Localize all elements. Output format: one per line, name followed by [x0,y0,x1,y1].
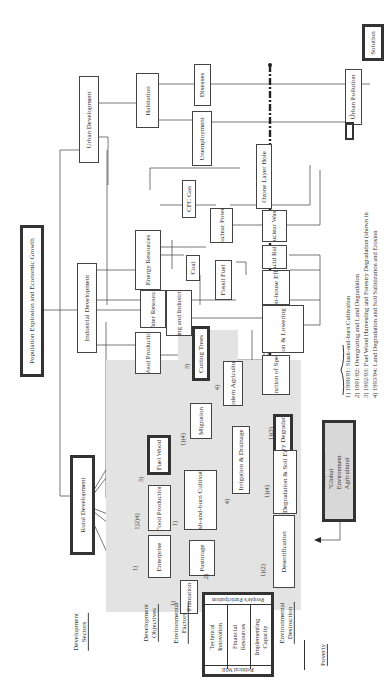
scope-of-study-label: Scope of the Study entitled "Global Envi… [322,453,356,490]
number-enterprise: 1) [131,566,138,571]
greenhouse-effects-label: Green-house Effects [272,270,280,305]
extinction-of-species-label: Extinction of Species [272,355,280,395]
label-environmental-factors: Environmental Factors [168,598,192,648]
unemployment-label: Unemployment [198,117,206,161]
number-forestry-degradation: 1)(3) [267,427,274,440]
enterprise-node: Enterprise [148,535,171,578]
acid-rain-node: Acid Rain [262,245,287,269]
land-degradation-node: Land Degradation & Soil Erosion [273,450,297,514]
water-resources-node: Water Resources [140,290,166,328]
number-land-degradation: 1)(4) [263,485,270,498]
wood-production-node: Wood Production [135,332,161,374]
diseases-label: Diseases [199,73,207,98]
number-cutting-trees: 3) [183,364,190,369]
solution-label: Solution [369,31,377,55]
fossil-fuel-label: Fossil Fuel [220,265,228,296]
financial-resources-cell: Financial Resources [228,605,251,669]
urban-development-node: Urban Development [79,76,99,163]
ozone-layer-hole-label: Ozone Layer Hole [260,151,268,203]
number-slash-burn: 1) [171,521,178,526]
urban-pollution-node: Urban Pollution [345,69,362,125]
nuclear-waste-label: Nuclear Waste [271,210,279,242]
industrial-development-node: Industrial Development [77,263,97,353]
food-production-label: Food Production [156,485,164,531]
food-production-node: Food Production [148,485,171,531]
land-degradation-label: Land Degradation & Soil Erosion [281,450,289,514]
number-fuel-wood: 3) [137,477,144,482]
number-irrigation: 4) [223,499,230,504]
number-modern-agri: 4) [213,385,220,390]
desertification-label: Desertification [280,531,288,573]
number-desertification: 1)(2) [259,564,266,577]
fuel-wood-node: Fuel Wood [147,435,171,475]
scope-of-study-box: Scope of the Study entitled "Global Envi… [322,420,356,522]
label-development-sectors: Development Sectors [68,610,92,654]
implementing-capacity-cell: Implementing Capacity [251,605,271,669]
slash-and-burn-label: Slash-and-burn Cultivation [197,470,205,530]
label-environmental-destruction: Environmental Destruction [274,598,298,648]
wood-production-label: Wood Production [144,332,152,374]
legend-item-4: 4) 1993/94: Land Degradation and Soil Sa… [371,230,378,398]
nuclear-power-label: Nuclear Power [218,208,226,243]
population-explosion-label: Population Explosion and Economic Growth [28,238,36,364]
fuel-wood-label: Fuel Wood [155,440,163,471]
coal-label: Coal [189,261,197,274]
cfc-gas-label: CFC Gas [185,186,193,212]
drinking-industrial-use-node: Drinking and Industrial Use [166,290,192,336]
legend: 1) 1990/91: Slash-and-burn Cultivation 2… [340,130,380,398]
water-pollution-label: Water Pollution & Lowering Groundwater [279,305,287,353]
label-development-objectives: Development Objectives [138,598,162,648]
industrial-development-label: Industrial Development [83,275,91,341]
label-poverty: Poverty [316,640,330,670]
number-food-production: 1)2)4) [133,513,140,529]
habitation-node: Habitation [136,73,159,128]
legend-item-1: 1) 1990/91: Slash-and-burn Cultivation [344,296,351,398]
slash-and-burn-node: Slash-and-burn Cultivation [184,470,217,530]
peoples-participation-cell: People's Participation [205,595,271,605]
habitation-label: Habitation [144,86,152,116]
solution-node: Solution [362,24,384,61]
poverty-arrow-icon [304,640,305,670]
pasturage-label: Pasturage [198,544,206,571]
drinking-industrial-use-label: Drinking and Industrial Use [175,290,183,336]
urban-development-label: Urban Development [85,91,93,148]
unemployment-node: Unemployment [192,111,212,166]
nuclear-power-node: Nuclear Power [210,208,233,243]
irrigation-drainage-label: Irrigation & Drainage [237,429,245,490]
rural-development-node: Rural Development [70,455,95,555]
migration-node: Migration [190,403,212,439]
water-pollution-node: Water Pollution & Lowering Groundwater [262,305,304,353]
modern-agriculture-label: Modern Agriculture [229,361,237,406]
legend-item-2: 2) 1991/92: Overgrazing and Land Degrada… [353,274,360,398]
ozone-layer-hole-node: Ozone Layer Hole [256,144,272,209]
coal-node: Coal [186,255,200,281]
migration-label: Migration [197,407,205,435]
irrigation-drainage-node: Irrigation & Drainage [232,426,250,494]
energy-resources-node: Energy Resources [135,230,161,290]
acid-rain-label: Acid Rain [271,245,279,269]
modern-agriculture-node: Modern Agriculture [223,361,243,406]
greenhouse-effects-node: Green-house Effects [262,270,290,305]
enterprise-label: Enterprise [156,542,164,571]
legend-item-3: 3) 1992/93: Fuel Wood Harvesting and For… [362,212,369,398]
desertification-node: Desertification [273,515,295,588]
cutting-trees-label: Cutting Trees [197,335,205,373]
legend-close-paren: ) [347,114,354,116]
rural-development-label: Rural Development [79,477,87,532]
technical-innovation-cell: Technical Innovation [205,605,228,669]
extinction-of-species-node: Extinction of Species [262,355,290,395]
nuclear-waste-node: Nuclear Waste [262,210,287,242]
cutting-trees-node: Cutting Trees [192,326,210,381]
urban-pollution-label: Urban Pollution [350,75,358,120]
energy-resources-label: Energy Resources [144,235,152,286]
water-resources-label: Water Resources [149,290,157,328]
population-explosion-node: Population Explosion and Economic Growth [20,225,44,377]
left-factors-table: People's Participation Technical Innovat… [202,592,274,677]
number-migration: 1)(4) [179,433,186,446]
legend-thick-box-icon [345,122,354,140]
fossil-fuel-node: Fossil Fuel [215,260,232,300]
diseases-node: Diseases [194,64,211,106]
cfc-gas-node: CFC Gas [182,180,196,218]
political-will-cell: Political Will [205,665,271,674]
pasturage-node: Pasturage [189,540,215,576]
